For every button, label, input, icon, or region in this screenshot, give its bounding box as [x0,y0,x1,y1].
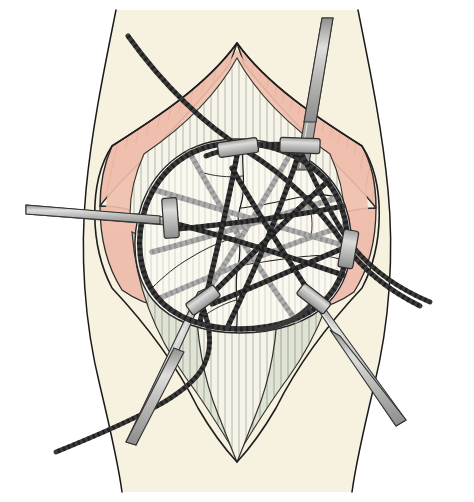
illustration-canvas [0,0,474,502]
crimp-left-body [162,197,180,238]
crimp-top-right-body [280,137,320,153]
crimp-left [162,197,180,238]
surgical-illustration-figure: Patellar fracture fixation: circumferent… [0,0,474,502]
crimp-top-right [280,137,320,153]
